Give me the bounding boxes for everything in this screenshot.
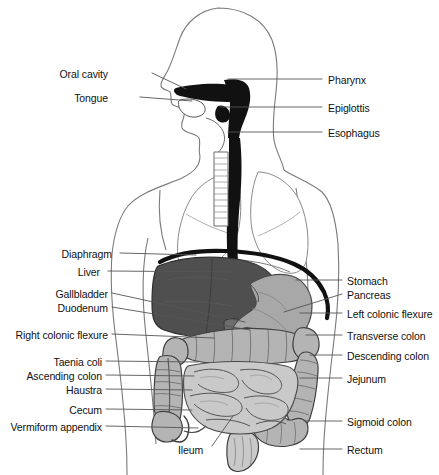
torso-right-outline	[323, 244, 339, 475]
label-ileum: Ileum	[178, 445, 203, 456]
label-descending-colon: Descending colon	[347, 351, 429, 362]
label-tongue: Tongue	[0, 93, 108, 104]
label-epiglottis: Epiglottis	[328, 103, 370, 114]
label-liver: Liver	[0, 267, 100, 278]
label-taenia-coli: Taenia coli	[0, 357, 102, 368]
label-ascending-colon: Ascending colon	[0, 371, 102, 382]
label-vermiform-appendix: Vermiform appendix	[0, 422, 102, 433]
label-left-colonic-flexure: Left colonic flexure	[347, 309, 433, 320]
label-transverse-colon: Transverse colon	[347, 331, 426, 342]
label-rectum: Rectum	[347, 445, 383, 456]
pharynx-shape	[224, 79, 250, 138]
torso-left-outline	[111, 254, 127, 475]
label-oral-cavity: Oral cavity	[0, 69, 108, 80]
trachea-group	[214, 152, 228, 226]
label-gallbladder: Gallbladder	[0, 289, 108, 300]
leader-oral-cavity	[152, 73, 186, 89]
label-pancreas: Pancreas	[347, 290, 391, 301]
epiglottis-shape	[215, 105, 230, 122]
abdominal-wall-left	[143, 238, 156, 444]
larynx-outline	[206, 118, 225, 154]
label-right-colonic-flexure: Right colonic flexure	[0, 330, 108, 341]
tongue-shape	[178, 99, 205, 117]
label-cecum: Cecum	[0, 405, 102, 416]
label-haustra: Haustra	[0, 385, 102, 396]
label-duodenum: Duodenum	[0, 303, 108, 314]
label-esophagus: Esophagus	[328, 128, 380, 139]
digestive-system-figure: Oral cavity Tongue Diaphragm Liver Gallb…	[0, 0, 439, 475]
trachea-shape	[214, 152, 228, 226]
label-diaphragm: Diaphragm	[0, 249, 112, 260]
label-stomach: Stomach	[347, 276, 388, 287]
ileum-segment	[184, 426, 206, 432]
label-jejunum: Jejunum	[347, 374, 386, 385]
label-pharynx: Pharynx	[328, 75, 366, 86]
label-sigmoid-colon: Sigmoid colon	[347, 417, 412, 428]
